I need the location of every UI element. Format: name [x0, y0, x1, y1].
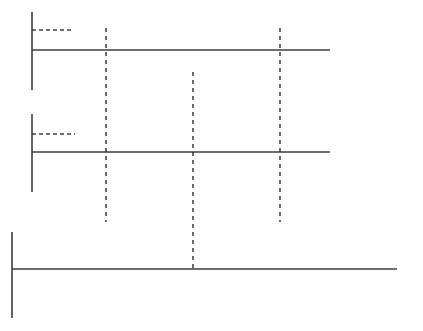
- panel-wave-top: [32, 12, 330, 90]
- panel-wave-middle: [32, 114, 330, 192]
- figure-canvas: [0, 0, 423, 331]
- beat-frequency-diagram: [0, 0, 423, 331]
- guide-lines: [106, 28, 280, 268]
- panel-wave-beat: [12, 232, 397, 318]
